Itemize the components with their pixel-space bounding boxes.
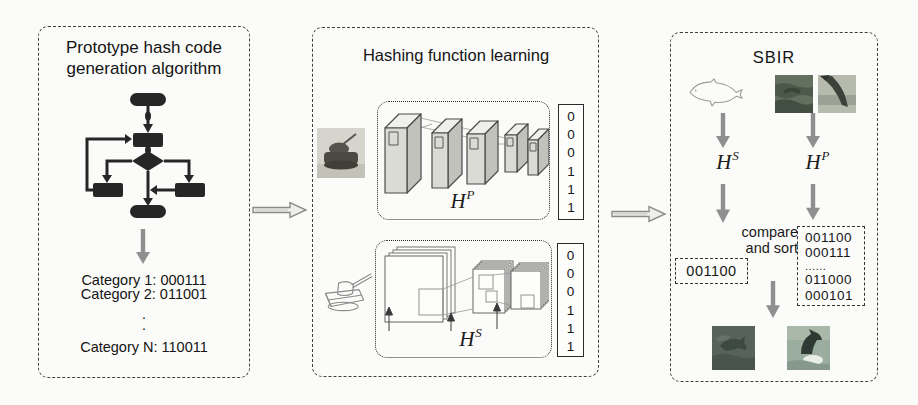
down-arrow-icon [136, 229, 150, 265]
down-arrow-icon [716, 184, 730, 224]
sbir-photo-hash-label: HP [790, 149, 844, 175]
sketch-hash-bits: 0 0 0 1 1 1 [557, 243, 584, 357]
left-title-line2: generation algorithm [48, 58, 240, 79]
result-photo-2 [787, 326, 830, 370]
ellipsis-dot: . [56, 320, 232, 331]
gallery-code: 011000 [805, 272, 864, 287]
middle-panel-title: Hashing function learning [330, 46, 582, 65]
dolphin-photo-2 [818, 75, 856, 113]
photo-hash-function-label: HP [432, 188, 492, 214]
query-code-box: 001100 [675, 258, 748, 284]
query-code: 001100 [686, 263, 736, 279]
gallery-code: 000111 [805, 245, 864, 260]
left-panel-title: Prototype hash code generation algorithm [48, 37, 240, 79]
category-line: Category N: 110011 [56, 340, 232, 354]
down-arrow-icon [806, 113, 820, 149]
down-arrow-icon [716, 113, 730, 149]
right-panel-title: SBIR [700, 48, 848, 67]
down-arrow-icon [766, 281, 780, 319]
dolphin-sketch-icon [688, 78, 744, 107]
sbir-sketch-hash-label: HS [700, 149, 754, 175]
gallery-code: 001100 [805, 230, 864, 245]
down-arrow-icon [806, 184, 820, 221]
figure-canvas: Prototype hash code generation algorithm [0, 0, 918, 405]
sketch-hash-function-label: HS [438, 326, 502, 352]
photo-hash-bits: 0 0 0 1 1 1 [558, 104, 584, 220]
gallery-codes-box: 001100 000111 ...... 011000 000101 [797, 226, 865, 306]
gallery-code: ...... [805, 260, 864, 272]
tank-photo [317, 128, 365, 178]
category-line: Category 2: 011001 [56, 287, 232, 301]
gallery-code: 000101 [805, 288, 864, 303]
tank-sketch-icon [318, 270, 374, 314]
right-arrow-icon [252, 200, 308, 220]
category-code-list: Category 1: 000111 Category 2: 011001 . … [56, 273, 232, 354]
left-title-line1: Prototype hash code [48, 37, 240, 58]
photo-cnn-diagram [381, 104, 549, 194]
dolphin-photo-1 [775, 75, 813, 113]
result-photo-1 [712, 326, 755, 370]
sketch-cnn-diagram [379, 245, 549, 333]
right-arrow-icon [610, 204, 668, 224]
category-line: Category 1: 000111 [56, 273, 232, 287]
flowchart-icon [82, 88, 207, 218]
compare-and-sort-label: compare and sort [728, 225, 798, 256]
